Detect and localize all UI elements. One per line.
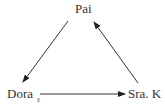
arrow-pai-to-dora: [23, 21, 68, 82]
arrow-srak-to-pai: [94, 22, 138, 83]
node-sra-k: Sra. K: [128, 87, 161, 101]
node-dora: Dora♀: [7, 87, 42, 102]
node-pai-label: Pai: [75, 1, 92, 16]
node-pai: Pai: [75, 2, 92, 16]
female-symbol-icon: ♀: [35, 95, 42, 105]
node-sra-k-label: Sra. K: [128, 86, 161, 101]
node-dora-label: Dora: [7, 86, 33, 101]
